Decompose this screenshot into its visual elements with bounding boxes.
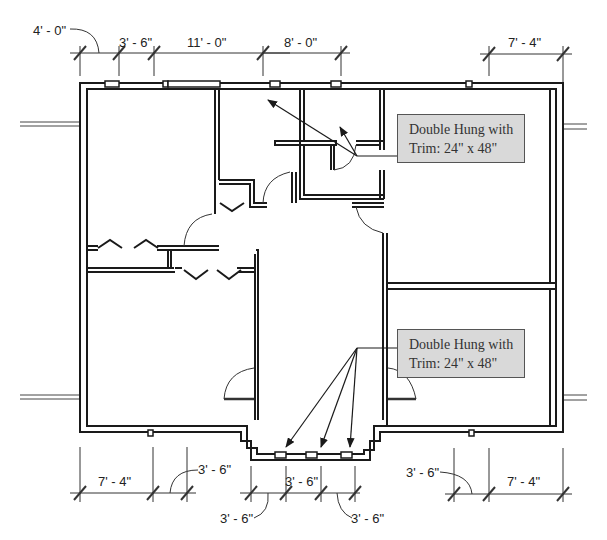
- floor-plan-drawing: 4' - 0" 3' - 6" 11' - 0" 8' - 0" 7' - 4"…: [0, 0, 607, 540]
- callout-upper-line2: Trim: 24" x 48": [409, 139, 524, 158]
- dim-8-0: 8' - 0": [284, 35, 317, 50]
- dimension-lines: [70, 29, 572, 518]
- dim-3-6-bottom-left: 3' - 6": [198, 462, 231, 477]
- dim-3-6-top: 3' - 6": [119, 35, 152, 50]
- dim-3-6-bottom-right: 3' - 6": [406, 465, 439, 480]
- dim-3-6-bottom-center-left: 3' - 6": [220, 511, 253, 526]
- dim-7-4-bottom-left: 7' - 4": [98, 474, 131, 489]
- dim-4-0: 4' - 0": [33, 23, 66, 38]
- window-callout-upper: Double Hung with Trim: 24" x 48": [397, 114, 525, 163]
- callout-upper-line1: Double Hung with: [409, 120, 524, 139]
- dim-3-6-bottom-center: 3' - 6": [285, 474, 318, 489]
- callout-lower-line2: Trim: 24" x 48": [409, 354, 524, 373]
- dim-7-4-top: 7' - 4": [508, 35, 541, 50]
- dimension-labels: 4' - 0" 3' - 6" 11' - 0" 8' - 0" 7' - 4"…: [33, 23, 541, 526]
- dim-7-4-bottom-right: 7' - 4": [507, 474, 540, 489]
- dim-11-0: 11' - 0": [187, 35, 227, 50]
- callout-lower-line1: Double Hung with: [409, 335, 524, 354]
- dim-3-6-bottom-center-right: 3' - 6": [351, 511, 384, 526]
- window-callout-lower: Double Hung with Trim: 24" x 48": [397, 329, 525, 378]
